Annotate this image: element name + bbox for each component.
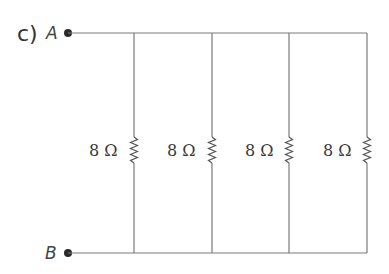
node-b-label: B — [45, 243, 57, 263]
resistor-3-icon — [286, 137, 293, 163]
resistor-branch-4: 8 Ω — [323, 33, 371, 253]
part-label: c) — [17, 21, 38, 46]
parallel-resistor-circuit: c) A B 8 Ω 8 Ω 8 Ω 8 Ω — [0, 0, 389, 274]
resistor-2-icon — [209, 137, 216, 163]
resistor-4-icon — [364, 137, 371, 163]
resistor-2-label: 8 Ω — [167, 141, 196, 160]
resistor-4-label: 8 Ω — [323, 141, 352, 160]
node-a-label: A — [45, 23, 58, 43]
resistor-1-icon — [131, 137, 138, 163]
resistor-branch-2: 8 Ω — [167, 33, 216, 253]
resistor-branch-3: 8 Ω — [245, 33, 293, 253]
resistor-1-label: 8 Ω — [89, 141, 118, 160]
resistor-branch-1: 8 Ω — [89, 33, 138, 253]
resistor-3-label: 8 Ω — [245, 141, 274, 160]
